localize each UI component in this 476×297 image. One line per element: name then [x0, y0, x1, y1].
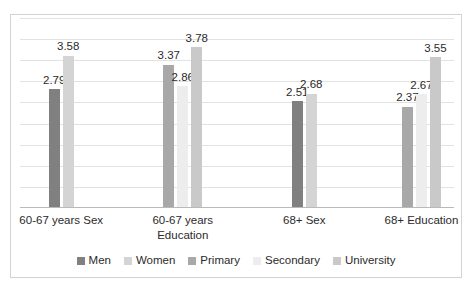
legend-label: Primary [200, 255, 240, 267]
bar-group: 2.372.673.55 [402, 17, 441, 207]
bar-value-label: 2.68 [300, 79, 322, 91]
bar[interactable] [49, 89, 60, 207]
legend-label: University [345, 255, 395, 267]
bar[interactable] [402, 107, 413, 207]
legend-swatch-icon [188, 257, 196, 265]
legend-swatch-icon [124, 257, 132, 265]
bar-wrap: 3.37 [163, 17, 174, 207]
bar-wrap: 2.86 [177, 17, 188, 207]
bar-group: 2.793.58 [49, 17, 74, 207]
legend-label: Women [136, 255, 175, 267]
legend-item[interactable]: Women [124, 255, 175, 267]
legend-item[interactable]: Primary [188, 255, 240, 267]
bar-wrap: 2.68 [306, 17, 317, 207]
category-label-line2: Education [157, 229, 208, 241]
bar-wrap: 3.78 [191, 17, 202, 207]
category-axis-labels: 60-67 years Sex60-67 yearsEducation68+ S… [20, 213, 454, 253]
bar-wrap: 3.58 [63, 17, 74, 207]
bar[interactable] [63, 56, 74, 207]
bar-group: 3.372.863.78 [163, 17, 202, 207]
legend-item[interactable]: Men [77, 255, 111, 267]
legend-label: Men [89, 255, 111, 267]
legend-item[interactable]: Secondary [253, 255, 320, 267]
bar-value-label: 3.78 [186, 33, 208, 45]
bar-value-label: 3.58 [57, 41, 79, 53]
chart-legend: MenWomenPrimarySecondaryUniversity [11, 255, 461, 267]
bar[interactable] [430, 57, 441, 207]
category-label: 68+ Education [365, 213, 476, 228]
legend-label: Secondary [265, 255, 320, 267]
bar-wrap: 3.55 [430, 17, 441, 207]
bar-wrap: 2.51 [292, 17, 303, 207]
category-label: 60-67 yearsEducation [127, 213, 239, 243]
bar-wrap: 2.37 [402, 17, 413, 207]
bar[interactable] [416, 94, 427, 207]
bar-value-label: 3.55 [424, 43, 446, 55]
bars-layer: 2.793.583.372.863.782.512.682.372.673.55 [20, 18, 454, 208]
bar[interactable] [177, 86, 188, 207]
bar[interactable] [163, 65, 174, 207]
legend-swatch-icon [77, 257, 85, 265]
chart-frame: 2.793.583.372.863.782.512.682.372.673.55… [10, 14, 462, 278]
legend-swatch-icon [333, 257, 341, 265]
bar[interactable] [306, 94, 317, 207]
bar-group: 2.512.68 [292, 17, 317, 207]
legend-swatch-icon [253, 257, 261, 265]
legend-item[interactable]: University [333, 255, 395, 267]
bar[interactable] [191, 47, 202, 207]
category-label: 60-67 years Sex [5, 213, 117, 228]
category-label: 68+ Sex [248, 213, 360, 228]
bar[interactable] [292, 101, 303, 207]
